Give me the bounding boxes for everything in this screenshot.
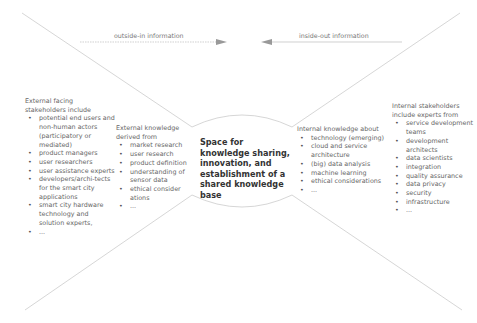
list-item: technology (emerging) bbox=[311, 134, 387, 143]
list-item: product managers bbox=[39, 149, 115, 158]
external-stakeholders-intro: External facing stakeholders include bbox=[25, 97, 115, 114]
list-item: infrastructure bbox=[406, 198, 474, 207]
inside-out-arrowhead-icon bbox=[261, 39, 272, 45]
internal-knowledge-block: Internal knowledge about technology (eme… bbox=[297, 125, 387, 195]
list-item: potential end users and non-human actors… bbox=[39, 114, 115, 149]
external-stakeholders-block: External facing stakeholders include pot… bbox=[25, 97, 115, 236]
list-item: user research bbox=[130, 150, 192, 159]
list-item: (big) data analysis bbox=[311, 160, 387, 169]
list-item: development architects bbox=[406, 137, 474, 154]
external-knowledge-list: market research user research product de… bbox=[116, 141, 192, 211]
inside-out-label: inside-out information bbox=[299, 32, 369, 39]
list-item: security bbox=[406, 189, 474, 198]
external-stakeholders-list: potential end users and non-human actors… bbox=[25, 114, 115, 236]
list-item: service development teams bbox=[406, 119, 474, 136]
shared-knowledge-space-title: Space for knowledge sharing, innovation,… bbox=[200, 137, 290, 201]
list-item: machine learning bbox=[311, 169, 387, 178]
list-item: product definition bbox=[130, 159, 192, 168]
list-item: ... bbox=[406, 206, 474, 215]
internal-knowledge-intro: Internal knowledge about bbox=[297, 125, 387, 134]
list-item: smart city hardware technology and solut… bbox=[39, 201, 115, 227]
list-item: quality assurance bbox=[406, 172, 474, 181]
list-item: cloud and service architecture bbox=[311, 142, 387, 159]
list-item: ... bbox=[39, 228, 115, 237]
outside-in-label: outside-in information bbox=[114, 32, 184, 39]
internal-knowledge-list: technology (emerging) cloud and service … bbox=[297, 134, 387, 195]
list-item: data scientists bbox=[406, 154, 474, 163]
list-item: integration bbox=[406, 163, 474, 172]
list-item: market research bbox=[130, 141, 192, 150]
list-item: ethical consider ations bbox=[130, 185, 192, 202]
list-item: developers/archi-tects for the smart cit… bbox=[39, 175, 115, 201]
outside-in-arrowhead-icon bbox=[216, 39, 227, 45]
list-item: user researchers bbox=[39, 158, 115, 167]
external-knowledge-block: External knowledge derived from market r… bbox=[116, 124, 192, 211]
list-item: user assistance experts bbox=[39, 167, 115, 176]
list-item: ethical considerations bbox=[311, 177, 387, 186]
list-item: data privacy bbox=[406, 180, 474, 189]
top-arc bbox=[192, 115, 292, 127]
list-item: ... bbox=[311, 186, 387, 195]
list-item: understanding of sensor data bbox=[130, 168, 192, 185]
internal-stakeholders-intro: Internal stakeholders include experts fr… bbox=[392, 102, 474, 119]
list-item: ... bbox=[130, 202, 192, 211]
external-knowledge-intro: External knowledge derived from bbox=[116, 124, 192, 141]
internal-stakeholders-list: service development teams development ar… bbox=[392, 119, 474, 215]
internal-stakeholders-block: Internal stakeholders include experts fr… bbox=[392, 102, 474, 215]
